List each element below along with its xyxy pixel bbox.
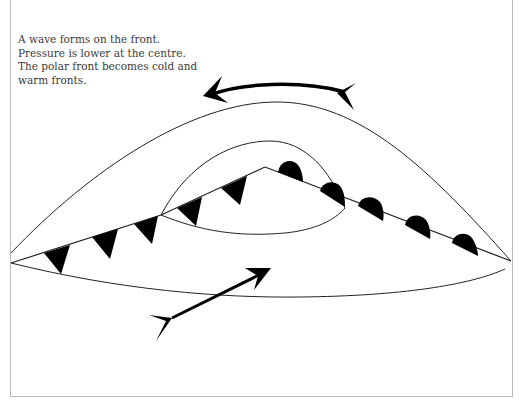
upper-wind-arrow-icon [203,76,356,110]
cold-front-triangle-icon [44,245,70,274]
warm-front-semicircle-icon [278,161,303,182]
warm-front-semicircle-icon [452,234,478,256]
warm-front-semicircle-icon [405,216,430,239]
warm-front-semicircle-icon [358,197,384,221]
lower-wind-arrow-icon [149,268,271,341]
cold-front-triangles [44,176,247,274]
cold-front-triangle-icon [134,216,158,244]
cold-front-triangle-icon [221,176,247,205]
warm-front-semicircles [278,161,478,256]
cold-front-triangle-icon [92,229,118,259]
frontal-wave-diagram [0,0,520,405]
outer-isobar [11,102,511,261]
warm-front-semicircle-icon [320,182,345,207]
